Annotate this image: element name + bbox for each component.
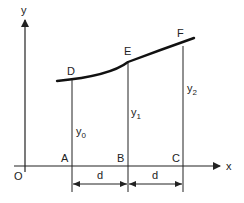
point-label-c: C — [172, 152, 180, 164]
ordinate-label-y1: y1 — [131, 106, 142, 121]
diagram-canvas: y x O D E F A B C y0 y1 y2 d d — [0, 0, 244, 203]
point-label-f: F — [177, 27, 184, 39]
point-label-d: D — [67, 65, 75, 77]
x-axis-label: x — [226, 160, 232, 172]
ordinate-label-y2: y2 — [187, 82, 198, 97]
dimension-label-ab: d — [97, 169, 103, 181]
ordinate-label-y0: y0 — [76, 125, 87, 140]
point-label-a: A — [61, 152, 69, 164]
origin-label: O — [14, 170, 23, 182]
point-label-e: E — [124, 45, 131, 57]
point-label-b: B — [117, 152, 124, 164]
y-axis-label: y — [21, 4, 27, 16]
dimension-label-bc: d — [152, 169, 158, 181]
